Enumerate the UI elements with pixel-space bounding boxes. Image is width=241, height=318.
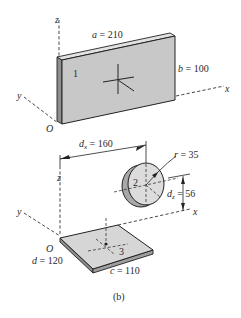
arrowhead bbox=[181, 203, 185, 210]
z-label-bottom: z bbox=[56, 172, 61, 183]
dim-r-label: r = 35 bbox=[174, 149, 199, 160]
arrowhead bbox=[181, 177, 185, 184]
y-axis-bottom bbox=[24, 213, 60, 236]
dim-dz-ext-top bbox=[168, 174, 190, 178]
top-diagram: z y x O 1 a = 210 b = 100 bbox=[16, 14, 230, 134]
dim-b-label: b = 100 bbox=[178, 63, 209, 74]
dim-a-label: a = 210 bbox=[92, 29, 123, 40]
dim-c-label: c = 110 bbox=[110, 265, 140, 276]
part-3-label: 3 bbox=[119, 246, 124, 257]
z-label-top: z bbox=[54, 14, 59, 25]
x-axis-bottom bbox=[118, 209, 190, 225]
dim-d-label: d = 120 bbox=[32, 255, 63, 266]
figure-caption: (b) bbox=[113, 291, 125, 303]
y-label-top: y bbox=[16, 90, 22, 101]
part-1-label: 1 bbox=[73, 68, 78, 79]
dim-dx-label: dx = 160 bbox=[79, 138, 113, 151]
plate-3-top bbox=[60, 225, 153, 269]
figure: z y x O 1 a = 210 b = 100 bbox=[0, 0, 241, 318]
origin-label-bottom: O bbox=[46, 243, 53, 254]
x-label-bottom: x bbox=[192, 206, 198, 217]
part-2-label: 2 bbox=[133, 177, 138, 188]
x-label-top: x bbox=[224, 83, 230, 94]
x-axis-top bbox=[176, 86, 224, 96]
plate-1-side bbox=[57, 57, 62, 124]
arrowhead bbox=[60, 155, 70, 159]
y-label-bottom: y bbox=[16, 206, 22, 217]
y-axis-top bbox=[24, 97, 58, 123]
dim-dz-label: dz = 56 bbox=[167, 188, 195, 201]
bottom-diagram: z y x O 2 3 dx = 160 r = 35 dz = 56 d = … bbox=[16, 138, 199, 303]
origin-label-top: O bbox=[46, 123, 53, 134]
plate-3-centroid bbox=[104, 242, 107, 245]
